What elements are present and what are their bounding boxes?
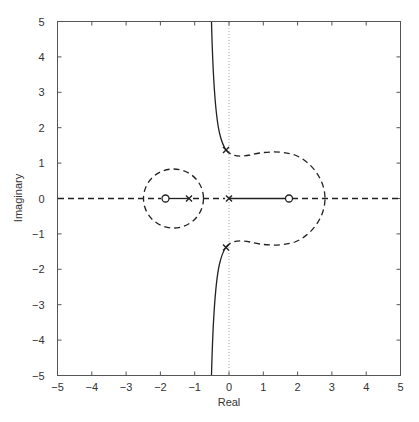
y-tick-label: 2 [38,122,44,134]
dashed-locus [58,150,398,247]
x-tick-label: 5 [397,381,403,393]
y-tick-label: 4 [38,51,44,63]
pole-marker [223,147,229,153]
solid-locus [167,22,286,375]
x-tick-label: −1 [188,381,201,393]
zero-marker [162,195,169,202]
y-tick-label: −4 [32,334,45,346]
zero-marker [286,195,293,202]
x-axis-label: Real [218,396,241,408]
x-tick-label: 3 [329,381,335,393]
x-tick-label: 2 [295,381,301,393]
x-tick-label: 4 [363,381,369,393]
x-tick-label: −2 [154,381,167,393]
y-tick-label: −1 [32,228,45,240]
upper-loop [226,150,325,199]
y-tick-label: −3 [32,299,45,311]
lower-loop [226,199,325,248]
y-tick-label: −5 [32,370,45,382]
y-tick-label: −2 [32,263,45,275]
y-axis-label: Imaginary [12,173,24,222]
root-locus-chart: −5−4−3−2−1012345 −5−4−3−2−1012345 [0,0,419,422]
lower-branch [212,247,227,375]
y-tick-label: 3 [38,86,44,98]
plot-area: −5−4−3−2−1012345 −5−4−3−2−1012345 [32,16,404,393]
x-tick-label: 0 [226,381,232,393]
upper-branch [212,22,227,150]
y-tick-label: 0 [38,193,44,205]
y-tick-label: 5 [38,16,44,28]
x-tick-label: −4 [86,381,99,393]
x-tick-label: −5 [51,381,64,393]
x-tick-label: 1 [260,381,266,393]
x-tick-label: −3 [120,381,133,393]
pole-marker [223,245,229,251]
x-ticks: −5−4−3−2−1012345 [51,22,403,393]
y-tick-label: 1 [38,157,44,169]
